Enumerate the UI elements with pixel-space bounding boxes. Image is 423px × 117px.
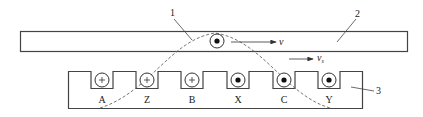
- callout-1-label: 1: [170, 7, 175, 18]
- callout-2-label: 2: [355, 8, 360, 19]
- slot-conductor-B: [185, 73, 199, 87]
- slot-label-Y: Y: [325, 94, 332, 105]
- field-velocity-label: vs: [317, 52, 324, 64]
- slot-label-C: C: [281, 94, 288, 105]
- dot-icon: [235, 77, 240, 82]
- callout-1-leader: [174, 19, 192, 40]
- mover-velocity-label: v: [279, 36, 284, 47]
- slot-conductor-C: [277, 73, 291, 87]
- slot-label-Z: Z: [144, 94, 150, 105]
- slot-label-A: A: [98, 94, 106, 105]
- slot-conductor-A: [95, 73, 109, 87]
- dot-icon: [326, 77, 331, 82]
- field-velocity-subscript: s: [321, 58, 324, 64]
- dot-icon: [214, 38, 219, 43]
- slot-conductor-X: [231, 73, 245, 87]
- mover-conductor: [210, 34, 224, 48]
- slot-conductor-Z: [140, 73, 154, 87]
- stator-core: [69, 72, 363, 109]
- slot-label-X: X: [234, 94, 242, 105]
- callout-2-leader: [337, 19, 356, 42]
- slot-conductor-Y: [322, 73, 336, 87]
- dot-icon: [281, 77, 286, 82]
- slot-label-B: B: [189, 94, 196, 105]
- callout-3-label: 3: [376, 85, 381, 96]
- linear-motor-diagram: A Z B X C Y v vs 1 2 3: [0, 0, 423, 117]
